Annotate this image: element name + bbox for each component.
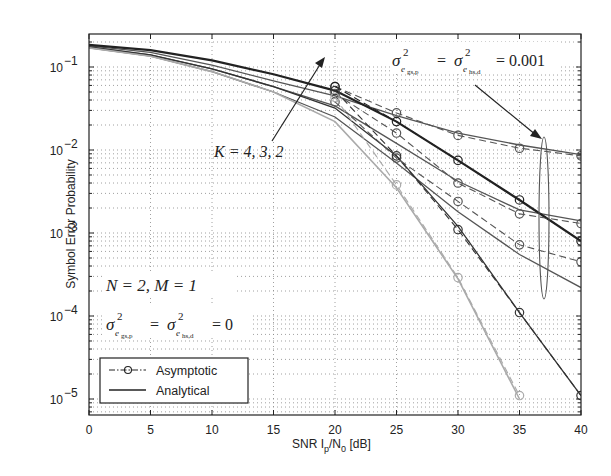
svg-text:=: = [437,52,446,69]
x-tick-label: 15 [267,423,281,437]
nm-annotation: N = 2, M = 1 [104,274,234,296]
svg-text:= 0: = 0 [212,316,233,333]
svg-text:=: = [150,316,159,333]
legend: Asymptotic Analytical [100,358,248,403]
y-tick-label: 10 [50,310,64,324]
svg-text:−5: −5 [64,386,78,400]
svg-text:e: e [401,64,405,74]
svg-text:e: e [176,328,180,338]
svg-text:hs,d: hs,d [469,68,481,76]
svg-text:Asymptotic: Asymptotic [156,364,217,378]
y-tick-label: 10 [50,61,64,75]
svg-text:2: 2 [403,46,409,58]
x-tick-label: 40 [574,423,588,437]
x-tick-label: 35 [513,423,527,437]
svg-text:hs,d: hs,d [182,332,194,340]
svg-text:σ: σ [454,51,463,70]
y-tick-label: 10 [50,393,64,407]
y-axis-label: Symbol Error Probability [64,159,78,288]
x-tick-label: 20 [328,423,342,437]
svg-text:gs,p: gs,p [407,68,419,76]
svg-text:N = 2, M = 1: N = 2, M = 1 [105,276,197,295]
svg-text:σ: σ [106,315,115,334]
svg-text:−1: −1 [64,54,78,68]
x-tick-label: 0 [86,423,93,437]
svg-text:−4: −4 [64,303,78,317]
svg-text:SNR Ip/N0 [dB]: SNR Ip/N0 [dB] [292,437,371,454]
sigma-zero-annotation: σ 2 e gs,p = σ 2 e hs,d = 0 [104,306,250,340]
svg-text:σ: σ [167,315,176,334]
svg-text:2: 2 [178,310,184,322]
x-axis-label: SNR Ip/N0 [dB] [292,437,371,454]
y-tick-label: 10 [50,144,64,158]
svg-text:σ: σ [392,51,401,70]
svg-text:e: e [115,328,119,338]
svg-text:2: 2 [117,310,123,322]
x-tick-label: 10 [205,423,219,437]
svg-text:K = 4, 3, 2: K = 4, 3, 2 [213,143,283,160]
x-tick-label: 25 [390,423,404,437]
svg-text:= 0.001: = 0.001 [496,52,545,69]
svg-text:Analytical: Analytical [156,384,210,398]
x-tick-label: 30 [451,423,465,437]
ser-chart: 051015202530354010−510−410−310−210−1 Sym… [0,0,611,476]
svg-text:−2: −2 [64,137,78,151]
svg-text:2: 2 [465,46,471,58]
x-tick-label: 5 [147,423,154,437]
y-tick-label: 10 [50,227,64,241]
svg-text:e: e [463,64,467,74]
svg-text:gs,p: gs,p [121,332,133,340]
